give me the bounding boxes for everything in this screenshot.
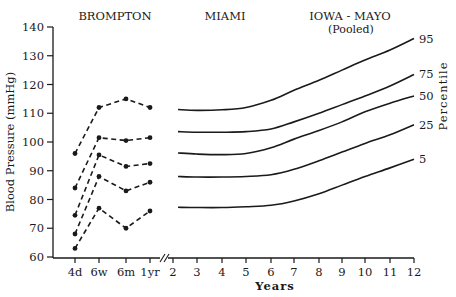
chart-labels: BROMPTON MIAMI IOWA - MAYO (Pooled) Year… [3,9,450,293]
percentile-label: 95 [419,32,434,46]
percentile-curve-p50 [178,96,414,155]
data-point [73,232,78,237]
data-point [73,151,78,156]
data-point [73,186,78,191]
brompton-line-p95 [75,99,150,154]
y-tick-label: 80 [29,193,44,207]
x-tick-label: 4d [68,265,83,279]
data-point [73,246,78,251]
section-title-miami: MIAMI [205,9,246,23]
y-tick-label: 140 [22,20,44,34]
brompton-line-p25 [75,177,150,235]
data-point [148,209,153,214]
data-point [148,161,153,166]
x-tick-label: 6m [117,265,135,279]
data-point [97,105,102,110]
y-axis-label: Blood Pressure (mmHg) [3,72,17,212]
data-point [148,105,153,110]
data-point [124,96,129,101]
percentile-label: 75 [419,67,434,81]
y-tick-label: 70 [29,221,44,235]
y-tick-label: 110 [22,106,44,120]
data-point [148,135,153,140]
percentile-curve-p75 [178,74,414,132]
data-point [124,138,129,143]
brompton-series [73,96,153,250]
data-point [124,226,129,231]
percentile-curves: 957550255 [178,32,434,208]
x-tick-label: 12 [407,265,422,279]
data-point [97,153,102,158]
x-tick-label: 7 [290,265,297,279]
y-tick-label: 130 [22,49,44,63]
axes: 607080901001101201301404d6w6m1yr23456789… [22,20,421,279]
data-point [97,135,102,140]
percentile-curve-p5 [178,159,414,207]
y-tick-label: 100 [22,135,44,149]
x-tick-label: 8 [315,265,322,279]
x-tick-label: 5 [242,265,249,279]
x-tick-label: 3 [193,265,200,279]
x-tick-label: 1yr [140,265,160,279]
percentile-curve-p95 [178,39,414,111]
x-tick-label: 4 [218,265,225,279]
brompton-line-p5 [75,208,150,248]
blood-pressure-chart: 607080901001101201301404d6w6m1yr23456789… [0,0,456,297]
brompton-line-p75 [75,138,150,188]
data-point [97,174,102,179]
y-tick-label: 120 [22,78,44,92]
section-title-iowa-mayo: IOWA - MAYO [309,9,390,23]
data-point [124,164,129,169]
data-point [73,213,78,218]
x-tick-label: 6w [90,265,107,279]
x-tick-label: 2 [169,265,176,279]
x-tick-label: 10 [358,265,373,279]
y-tick-label: 60 [29,250,44,264]
section-subtitle-pooled: (Pooled) [328,23,374,36]
x-tick-label: 6 [267,265,274,279]
data-point [124,188,129,193]
x-tick-label: 9 [338,265,345,279]
percentile-axis-label: Percentile [436,62,450,131]
x-tick-label: 11 [383,265,398,279]
percentile-label: 25 [419,118,434,132]
x-axis-label: Years [254,279,295,293]
data-point [148,180,153,185]
y-tick-label: 90 [29,164,44,178]
percentile-label: 5 [419,152,426,166]
percentile-label: 50 [419,89,434,103]
section-title-brompton: BROMPTON [78,9,151,23]
data-point [97,206,102,211]
